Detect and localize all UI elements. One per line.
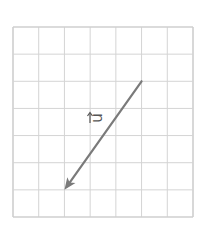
vector-label-text: u <box>88 113 106 123</box>
vector-grid-diagram: u <box>0 0 202 235</box>
vector-label: u <box>88 113 107 124</box>
vector-shaft <box>70 81 142 182</box>
arrowhead-icon <box>64 177 75 190</box>
